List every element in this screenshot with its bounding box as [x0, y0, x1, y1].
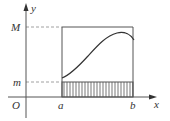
y-axis-label: y	[30, 2, 36, 14]
tick-label-m: m	[13, 76, 21, 88]
tick-label-b: b	[130, 99, 136, 111]
integral-estimate-diagram: y x O M m a b	[0, 0, 170, 121]
y-axis-arrow-icon	[24, 3, 29, 11]
origin-label: O	[12, 99, 20, 111]
tick-label-a: a	[58, 99, 64, 111]
shaded-lower-rectangle	[62, 82, 133, 97]
function-curve	[62, 32, 134, 78]
x-axis-label: x	[153, 98, 159, 110]
tick-label-M: M	[10, 21, 21, 33]
